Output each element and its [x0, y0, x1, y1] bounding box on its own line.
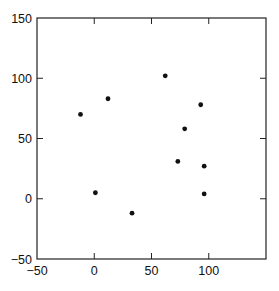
scatter-chart: −50050100150 −50050100 — [0, 0, 279, 291]
y-tick-label: 100 — [11, 72, 32, 86]
data-point — [198, 102, 203, 107]
plot-frame — [37, 18, 266, 259]
data-point — [163, 73, 168, 78]
x-tick-label: −50 — [26, 264, 47, 278]
y-axis: −50050100150 — [11, 12, 266, 267]
y-tick-label: 150 — [11, 12, 32, 26]
data-point — [78, 112, 83, 117]
data-point — [202, 164, 207, 169]
data-points — [78, 73, 206, 215]
x-axis: −50050100 — [26, 18, 219, 278]
data-point — [130, 211, 135, 216]
data-point — [182, 126, 187, 131]
data-point — [202, 192, 207, 197]
data-point — [175, 159, 180, 164]
data-point — [93, 190, 98, 195]
data-point — [106, 96, 111, 101]
y-tick-label: 50 — [18, 132, 32, 146]
x-tick-label: 50 — [145, 264, 159, 278]
x-tick-label: 0 — [91, 264, 98, 278]
y-tick-label: 0 — [25, 192, 32, 206]
x-tick-label: 100 — [198, 264, 219, 278]
